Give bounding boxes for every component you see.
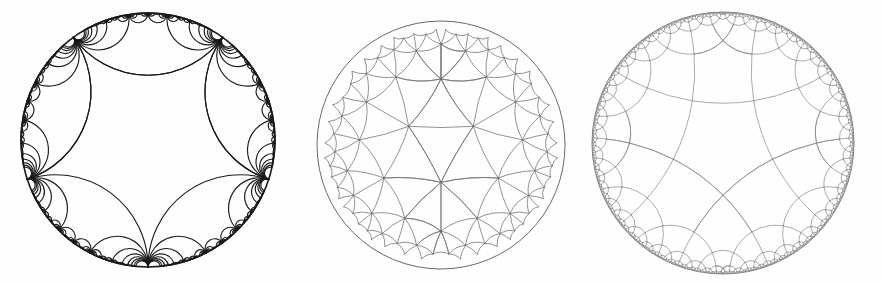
geodesic-arc — [781, 256, 783, 258]
geodesic-arc — [752, 232, 763, 253]
geodesic-arc — [741, 268, 744, 270]
geodesic-arc — [595, 142, 596, 146]
geodesic-arc — [607, 85, 609, 86]
geodesic-arc — [817, 143, 831, 167]
geodesic-arc — [465, 245, 477, 254]
geodesic-arc — [694, 41, 723, 54]
geodesic-arc — [416, 34, 426, 51]
geodesic-arc — [529, 207, 538, 214]
geodesic-arc — [848, 119, 849, 123]
geodesic-arc — [344, 195, 354, 206]
geodesic-arc — [433, 252, 449, 254]
geodesic-arc — [473, 126, 498, 178]
geodesic-arc — [131, 265, 132, 266]
geodesic-arc — [723, 41, 752, 54]
geodesic-arc — [618, 69, 619, 73]
geodesic-arc — [473, 126, 522, 139]
geodesic-arc — [615, 167, 622, 187]
geodesic-arc — [686, 261, 691, 265]
geodesic-arc — [799, 198, 815, 215]
geodesic-arc — [529, 71, 531, 83]
geodesic-arc — [595, 123, 597, 125]
geodesic-arc — [754, 19, 758, 22]
geodesic-arc — [837, 194, 839, 198]
geodesic-arc — [837, 198, 838, 201]
geodesic-arc — [601, 96, 602, 97]
geodesic-arc — [839, 92, 842, 94]
geodesic-arc — [750, 16, 751, 18]
geodesic-arc — [821, 221, 822, 225]
geodesic-arc — [723, 41, 752, 54]
geodesic-arc — [365, 58, 378, 60]
geodesic-arc — [597, 123, 602, 127]
geodesic-arc — [782, 29, 784, 31]
geodesic-arc — [205, 27, 206, 28]
geodesic-arc — [328, 122, 333, 134]
geodesic-arc — [195, 257, 196, 258]
geodesic-arc — [696, 19, 701, 24]
geodesic-arc — [353, 195, 355, 213]
geodesic-arc — [540, 105, 549, 116]
geodesic-arc — [624, 221, 625, 225]
geodesic-arc — [342, 102, 367, 116]
geodesic-arc — [732, 272, 733, 273]
geodesic-arc — [752, 225, 783, 232]
geodesic-arc — [787, 252, 788, 255]
geodesic-arc — [838, 188, 843, 189]
geodesic-arc — [599, 165, 600, 170]
geodesic-arc — [397, 242, 416, 245]
geodesic-arc — [824, 66, 827, 69]
geodesic-arc — [466, 34, 468, 51]
geodesic-arc — [826, 210, 828, 216]
geodesic-arc — [635, 59, 650, 61]
geodesic-arc — [252, 67, 253, 68]
geodesic-arc — [409, 79, 441, 126]
geodesic-arc — [834, 205, 835, 208]
geodesic-arc — [850, 150, 852, 152]
geodesic-arc — [237, 50, 238, 51]
geodesic-arc — [63, 45, 64, 46]
geodesic-arc — [234, 233, 235, 234]
geodesic-arc — [441, 51, 466, 79]
geodesic-arc — [849, 123, 851, 125]
geodesic-arc — [382, 234, 385, 247]
geodesic-arc — [846, 165, 847, 170]
geodesic-arc — [793, 246, 794, 251]
geodesic-arc — [649, 246, 652, 248]
geodesic-arc — [793, 242, 799, 246]
geodesic-arc — [477, 243, 485, 254]
geodesic-arc — [594, 150, 596, 152]
geodesic-arc — [667, 34, 671, 48]
geodesic-arc — [105, 259, 106, 260]
geodesic-arc — [597, 138, 606, 139]
geodesic-arc — [99, 23, 100, 24]
geodesic-arc — [613, 79, 616, 85]
geodesic-arc — [441, 79, 473, 126]
geodesic-arc — [90, 27, 91, 28]
geodesic-arc — [61, 47, 62, 48]
geodesic-arc — [694, 41, 723, 54]
geodesic-arc — [688, 19, 689, 22]
geodesic-arc — [486, 74, 515, 78]
geodesic-arc — [847, 169, 850, 170]
geodesic-arc — [635, 52, 636, 59]
geodesic-arc — [351, 71, 353, 83]
geodesic-arc — [610, 79, 613, 80]
geodesic-arc — [607, 83, 608, 84]
geodesic-arc — [822, 227, 823, 228]
geodesic-arc — [510, 195, 528, 213]
geodesic-arc — [366, 74, 395, 78]
geodesic-arc — [334, 134, 360, 140]
geodesic-arc — [723, 13, 724, 14]
geodesic-arc — [372, 234, 382, 240]
geodesic-arc — [680, 253, 684, 262]
geodesic-arc — [843, 158, 849, 159]
geodesic-arc — [527, 195, 529, 213]
geodesic-arc — [822, 219, 826, 221]
geodesic-arc — [678, 22, 681, 23]
geodesic-arc — [333, 97, 343, 104]
geodesic-arc — [449, 254, 460, 259]
geodesic-arc — [617, 66, 618, 67]
geodesic-arc — [741, 262, 745, 268]
geodesic-arc — [847, 165, 850, 166]
